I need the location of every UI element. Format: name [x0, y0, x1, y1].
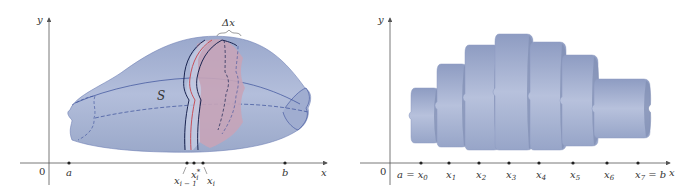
tick-label-b: b: [282, 167, 288, 178]
left-figure: Δx S y x 0 a b xi − 1 x*i xi: [20, 14, 327, 188]
slab-6: [560, 55, 599, 146]
right-tick-label-6: x6: [604, 169, 615, 182]
left-y-label: y: [36, 14, 43, 25]
tick-x-i-star: [192, 161, 195, 164]
right-tick-5: [571, 161, 574, 164]
right-origin-label: 0: [380, 166, 386, 177]
right-ticks: a = x0x1x2x3x4x5x6x7 = b: [397, 161, 666, 182]
right-tick-label-1: x1: [446, 169, 456, 182]
right-tick-label-0: a = x0: [397, 169, 428, 182]
right-tick-label-7: x7 = b: [635, 169, 666, 182]
slab-2: [435, 64, 469, 147]
left-x-label: x: [321, 167, 327, 178]
tick-a: [67, 161, 70, 164]
right-tick-label-5: x5: [570, 169, 581, 182]
right-tick-3: [507, 161, 510, 164]
right-x-label: x: [669, 167, 675, 178]
slab-7: [592, 79, 651, 138]
figure-canvas: Δx S y x 0 a b xi − 1 x*i xi y x 0 a = x…: [0, 0, 687, 193]
right-figure: y x 0 a = x0x1x2x3x4x5x6x7 = b: [360, 14, 675, 185]
delta-x-label: Δx: [221, 17, 235, 28]
slab-stack: [409, 34, 651, 150]
right-y-label: y: [377, 14, 384, 25]
slab-5: [528, 42, 567, 150]
pointer-x-i: [204, 167, 207, 174]
tick-x-i-minus-1: [185, 161, 188, 164]
slab-4: [493, 34, 534, 150]
tick-label-x-i: xi: [207, 175, 215, 188]
right-tick-4: [537, 161, 540, 164]
tick-x-i: [201, 161, 204, 164]
left-origin-label: 0: [39, 166, 45, 177]
right-tick-0: [419, 161, 422, 164]
right-tick-label-4: x4: [536, 169, 546, 182]
tick-label-x-i-star: x*i: [191, 168, 201, 182]
right-tick-label-2: x2: [476, 169, 487, 182]
right-tick-label-3: x3: [506, 169, 517, 182]
pointer-x-i-minus-1: [183, 167, 186, 174]
solid-s-label: S: [157, 89, 165, 103]
right-tick-2: [477, 161, 480, 164]
slab-1: [409, 88, 441, 143]
right-tick-7: [636, 161, 639, 164]
right-tick-6: [605, 161, 608, 164]
right-tick-1: [447, 161, 450, 164]
tick-b: [283, 161, 286, 164]
tick-label-a: a: [66, 167, 72, 178]
delta-x-brace: [217, 30, 241, 36]
